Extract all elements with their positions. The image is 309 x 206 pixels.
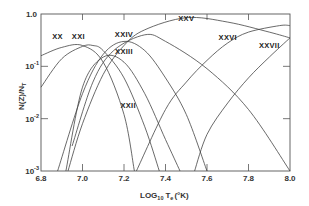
curve-xxv: [68, 17, 290, 171]
x-tick-label: 7.2: [118, 174, 130, 183]
curve-xxi: [41, 45, 159, 171]
ion-labels: XXXXIXXIIXXIIIXXIVXXVXXVIXXVII: [52, 14, 279, 110]
x-tick-label: 6.8: [35, 174, 47, 183]
curve-xxii: [66, 55, 180, 171]
y-tick-label: 10-1: [25, 60, 39, 71]
y-axis-label: N(Z)/NT: [17, 82, 27, 110]
x-tick-label: 8.0: [284, 174, 296, 183]
x-tick-label: 7.8: [243, 174, 255, 183]
ion-label-xxiii: XXIII: [115, 47, 133, 56]
ion-label-xxi: XXI: [72, 32, 85, 41]
ion-label-xxvi: XXVI: [219, 33, 237, 42]
x-tick-label: 7.4: [160, 174, 172, 183]
ion-label-xxvii: XXVII: [259, 41, 280, 50]
y-axis-ticks: 1.010-110-210-3: [25, 10, 290, 176]
ion-label-xxii: XXII: [120, 101, 135, 110]
curve-xxvii: [195, 38, 290, 171]
y-tick-label: 1.0: [26, 10, 38, 19]
x-axis-label: LOG10Te(°K): [140, 191, 189, 201]
ionization-fraction-chart: 6.87.07.27.47.67.88.0 1.010-110-210-3 XX…: [0, 0, 309, 206]
y-tick-label: 10-2: [25, 113, 39, 124]
ion-label-xx: XX: [52, 32, 63, 41]
ion-label-xxv: XXV: [178, 14, 194, 23]
x-tick-label: 7.0: [77, 174, 89, 183]
x-tick-label: 7.6: [201, 174, 213, 183]
ion-label-xxiv: XXIV: [115, 30, 133, 39]
curve-xxiv: [72, 34, 290, 171]
